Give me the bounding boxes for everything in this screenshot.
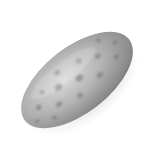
image-canvas [0,0,154,156]
egg-illustration [0,0,154,156]
